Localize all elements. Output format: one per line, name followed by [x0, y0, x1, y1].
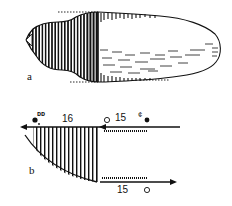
panel-a-label: a	[27, 71, 32, 82]
body-fringe	[101, 13, 155, 82]
arrowhead-left-inner	[99, 124, 106, 130]
body-interior-dashes	[100, 44, 218, 73]
symbol-c: ¢	[138, 111, 142, 119]
value-top-right: 15	[115, 113, 126, 123]
filled-dot-left	[32, 117, 37, 122]
open-circle-bottom	[144, 187, 149, 192]
arrowhead-right	[170, 179, 177, 185]
open-circle-top	[104, 117, 109, 122]
value-bottom: 15	[117, 185, 128, 195]
body-outline	[98, 12, 220, 82]
panel-a-specimen	[26, 10, 220, 85]
value-top-left: 16	[62, 114, 73, 124]
panel-b-flow-diagram	[20, 117, 180, 192]
panel-b-label: b	[29, 165, 35, 176]
filled-dot-right	[145, 118, 150, 123]
symbol-dd: ᴅᴅ	[37, 110, 45, 117]
arrowhead-left-outer	[20, 124, 27, 130]
